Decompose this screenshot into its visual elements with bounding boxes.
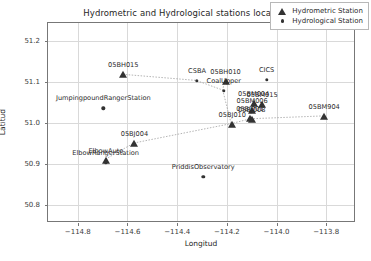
x-tick (78, 223, 79, 226)
x-tick (127, 223, 128, 226)
triangle-marker-icon (278, 8, 286, 15)
x-tick-label: −114.8 (65, 228, 91, 236)
point-label: PriddisObservatory (172, 164, 235, 171)
x-tick-label: −113.8 (313, 228, 339, 236)
point-label: 05BJ004 (121, 132, 148, 139)
x-tick (177, 223, 178, 226)
x-tick (277, 223, 278, 226)
y-tick-label: 51.1 (24, 78, 40, 86)
y-tick-label: 51.2 (24, 37, 40, 45)
legend-label: Hydrological Station (292, 17, 363, 25)
y-tick (45, 205, 48, 206)
point-labels-layer: 05BH01505BH01005BM01505BM00405BM00605BJ0… (48, 23, 354, 221)
x-axis-label: Longitud (47, 239, 355, 248)
point-label: 05BH010 (210, 70, 240, 77)
y-axis-label: Latitud (0, 109, 7, 135)
y-tick (45, 164, 48, 165)
point-label: 05BM904 (309, 104, 340, 111)
point-label: 05BH015 (108, 62, 138, 69)
point-label: JumpingpoundRangerStation (56, 96, 151, 103)
y-tick-label: 50.8 (24, 201, 40, 209)
y-tick (45, 41, 48, 42)
point-label: CICS (259, 67, 274, 74)
chart-figure: Hydrometric and Hydrological stations lo… (0, 0, 371, 261)
x-tick-label: −114.2 (214, 228, 240, 236)
chart-legend: Hydrometric StationHydrological Station (270, 2, 369, 30)
legend-label: Hydrometric Station (292, 7, 363, 15)
point-label: 05BJ010 (219, 112, 246, 119)
x-tick (326, 223, 327, 226)
point-label: CoalUpper (207, 78, 241, 85)
y-tick-label: 50.9 (24, 160, 40, 168)
legend-item: Hydrological Station (275, 16, 363, 26)
x-tick-label: −114.0 (264, 228, 290, 236)
y-tick (45, 82, 48, 83)
x-tick-label: −114.4 (164, 228, 190, 236)
point-label: CSBA (188, 68, 206, 75)
x-tick-label: −114.6 (115, 228, 141, 236)
legend-item: Hydrometric Station (275, 6, 363, 16)
x-tick (227, 223, 228, 226)
y-tick (45, 123, 48, 124)
point-label: 05BM006 (237, 98, 268, 105)
y-tick-label: 51.0 (24, 119, 40, 127)
point-label: ElbowRangerStation (72, 150, 139, 157)
plot-area: 05BH01505BH01005BM01505BM00405BM00605BJ0… (47, 22, 355, 222)
circle-marker-icon (281, 19, 284, 22)
